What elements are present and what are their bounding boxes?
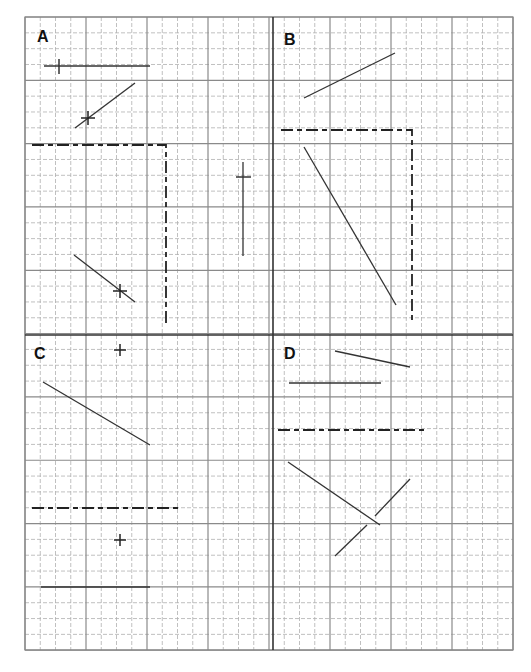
line-segment	[335, 525, 367, 556]
quadrant-label-d: D	[284, 345, 296, 362]
plus-icon	[81, 111, 95, 125]
plus-icon	[114, 534, 126, 546]
line-segment	[43, 382, 150, 445]
line-segment	[335, 351, 410, 367]
line-segment	[74, 255, 135, 302]
solid-line-segments	[41, 53, 410, 587]
quadrant-label-b: B	[284, 31, 296, 48]
line-segment	[288, 462, 380, 525]
plus-icon	[114, 344, 126, 356]
line-segment	[304, 53, 395, 98]
plus-marks	[81, 111, 127, 546]
line-segment	[375, 479, 410, 516]
quadrant-label-c: C	[34, 345, 46, 362]
dashed-line-segments	[32, 130, 427, 508]
quadrant-label-a: A	[37, 28, 49, 45]
line-segment	[304, 147, 396, 305]
quadrant-labels: A B C D	[34, 28, 296, 362]
line-segment	[75, 83, 135, 128]
grid-diagram: A B C D	[0, 0, 531, 672]
dashed-line	[32, 145, 166, 324]
